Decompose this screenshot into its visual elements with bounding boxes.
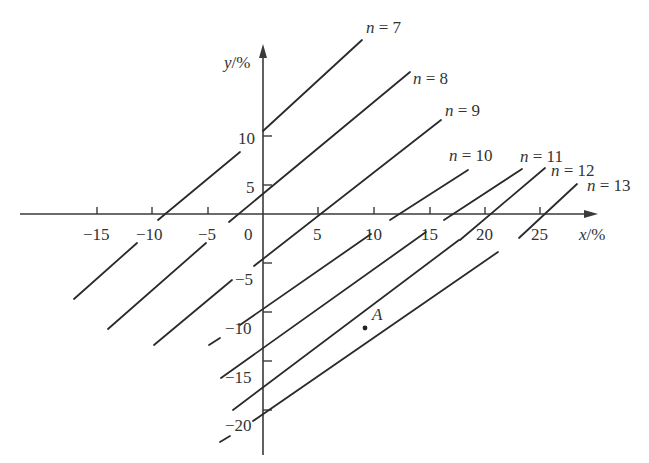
line-n12: [233, 168, 545, 410]
x-tick-label: −15: [83, 225, 110, 244]
point-a-label: A: [371, 305, 383, 324]
label-n7: n = 7: [366, 18, 402, 37]
label-n8: n = 8: [413, 69, 448, 88]
line-n7: [74, 40, 362, 299]
y-axis-title: y/%: [222, 53, 250, 72]
y-ticks: [263, 136, 272, 410]
line-n8: [108, 72, 410, 329]
label-n9: n = 9: [445, 101, 480, 120]
line-n11: [221, 169, 522, 378]
x-tick-label: 5: [313, 225, 322, 244]
x-tick-label: 20: [476, 225, 493, 244]
point-a: [363, 326, 368, 331]
x-ticks: [97, 207, 540, 214]
y-axis-arrow-icon: [259, 44, 267, 58]
y-tick-label: 5: [246, 178, 255, 197]
x-axis-title: x/%: [578, 225, 605, 244]
y-tick-label: 10: [238, 129, 255, 148]
label-n13: n = 13: [587, 176, 631, 195]
x-axis-arrow-icon: [584, 210, 598, 218]
y-tick-label: −10: [225, 319, 252, 338]
origin-label: 0: [244, 225, 253, 244]
x-tick-label: −10: [136, 225, 163, 244]
y-tick-label: −15: [225, 368, 252, 387]
x-tick-label: −5: [198, 225, 216, 244]
x-tick-label: 25: [531, 225, 548, 244]
y-tick-label: −20: [225, 416, 252, 435]
y-tick-label: −5: [235, 270, 253, 289]
line-n13: [220, 184, 577, 442]
x-tick-label: 10: [365, 225, 382, 244]
diagram-canvas: −15 −10 −5 5 10 15 20 25 0 10 5 −5 −10 −…: [0, 0, 649, 463]
label-n10: n = 10: [449, 146, 493, 165]
